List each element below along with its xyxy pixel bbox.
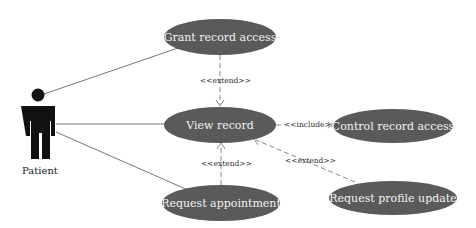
usecase-request-profile-update: Request profile update bbox=[329, 181, 457, 215]
extend-label-3: <<extend>> bbox=[285, 156, 336, 165]
usecase-grant-record-access: Grant record access bbox=[164, 19, 277, 55]
svg-text:Request appointment: Request appointment bbox=[161, 197, 281, 210]
usecase-request-appointment: Request appointment bbox=[161, 185, 281, 221]
svg-text:Control record access: Control record access bbox=[332, 120, 455, 133]
actor-patient: Patient bbox=[21, 89, 58, 177]
use-case-diagram: <<extend>> <<include>> <<extend>> <<exte… bbox=[0, 0, 476, 228]
association-patient-appointment bbox=[56, 132, 188, 190]
actor-body-icon bbox=[21, 106, 55, 159]
svg-text:View record: View record bbox=[185, 119, 254, 132]
usecase-view-record: View record bbox=[164, 107, 276, 143]
association-patient-grant bbox=[44, 48, 178, 94]
svg-text:Request profile update: Request profile update bbox=[329, 192, 456, 205]
svg-text:Grant record access: Grant record access bbox=[164, 31, 277, 44]
include-label: <<include>> bbox=[284, 120, 337, 129]
actor-label: Patient bbox=[22, 165, 58, 176]
usecase-control-record-access: Control record access bbox=[332, 109, 455, 143]
actor-head-icon bbox=[32, 89, 45, 102]
extend-label-1: <<extend>> bbox=[200, 76, 251, 85]
extend-label-2: <<extend>> bbox=[201, 159, 252, 168]
